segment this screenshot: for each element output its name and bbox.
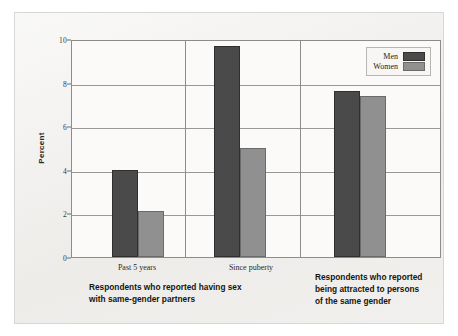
legend-item-men: Men — [373, 52, 425, 61]
group-caption-sex-partners: Respondents who reported having sex with… — [89, 281, 299, 305]
y-tick-6: 6 — [63, 123, 67, 132]
bar-women-since-puberty — [240, 148, 266, 257]
legend-item-women: Women — [373, 62, 425, 71]
bar-men-past-5-years — [112, 170, 138, 257]
group-caption-attraction-line3: of the same gender — [315, 295, 458, 307]
legend-label-women: Women — [373, 62, 398, 71]
group-caption-attraction: Respondents who reported being attracted… — [315, 271, 458, 307]
legend-swatch-men — [403, 52, 425, 61]
x-tick-since-puberty: Since puberty — [229, 263, 273, 272]
bar-women-attraction — [360, 96, 386, 257]
chart-legend: Men Women — [366, 47, 431, 76]
bar-men-since-puberty — [214, 46, 240, 257]
chart-figure: Percent 0 2 4 6 8 10 — [14, 12, 444, 324]
gridline-8 — [72, 85, 440, 86]
legend-label-men: Men — [383, 52, 398, 61]
y-tick-4: 4 — [63, 166, 67, 175]
group-caption-sex-partners-line1: Respondents who reported having sex — [89, 281, 299, 293]
group-caption-attraction-line1: Respondents who reported — [315, 271, 458, 283]
bar-men-attraction — [334, 91, 360, 257]
y-axis: Percent 0 2 4 6 8 10 — [43, 40, 71, 258]
panel-divider-1 — [185, 41, 186, 257]
y-tick-10: 10 — [59, 36, 67, 45]
x-tick-past-5-years: Past 5 years — [118, 263, 156, 272]
plot-area: Men Women — [71, 40, 441, 258]
group-caption-sex-partners-line2: with same-gender partners — [89, 293, 299, 305]
group-caption-attraction-line2: being attracted to persons — [315, 283, 458, 295]
y-tick-8: 8 — [63, 79, 67, 88]
bar-women-past-5-years — [138, 211, 164, 257]
y-tick-0: 0 — [63, 254, 67, 263]
y-axis-title: Percent — [37, 132, 46, 163]
legend-swatch-women — [403, 62, 425, 71]
y-tick-2: 2 — [63, 210, 67, 219]
panel-divider-2 — [300, 41, 301, 257]
